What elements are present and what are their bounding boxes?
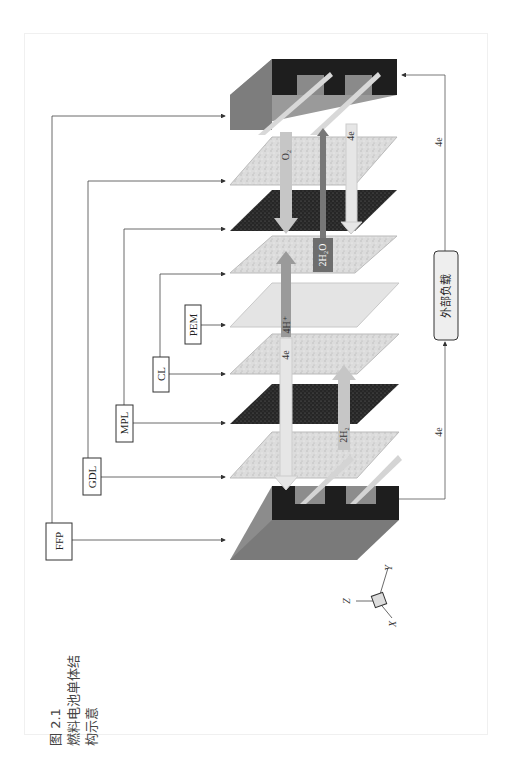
- circuit-electron-bottom-label: 4e: [433, 427, 444, 437]
- axis-z-label: Z: [341, 598, 352, 604]
- proton-label: 4H⁺: [281, 316, 292, 333]
- pem-layer: [230, 283, 399, 327]
- mpl-label-box: MPL: [116, 405, 133, 442]
- external-load-box: 外部负载: [434, 251, 458, 340]
- anode-gdl-layer: [230, 432, 399, 478]
- h2-label: 2H₂: [338, 427, 349, 443]
- axis-triad: Y Z X: [341, 564, 398, 628]
- ffp-label-box: FFP: [46, 523, 72, 560]
- svg-text:PEM: PEM: [187, 313, 199, 336]
- circuit-electron-top-label: 4e: [433, 137, 444, 147]
- cathode-flow-field-plate: [230, 59, 397, 135]
- figure-caption: 图 2.1 燃料电池单体结 构示意: [48, 655, 99, 746]
- caption-line2: 构示意: [84, 707, 99, 746]
- fuel-cell-diagram: O₂ 2H₂O 4e 4H⁺ 4e 2H₂: [0, 0, 515, 782]
- caption-number: 图 2.1: [48, 708, 63, 746]
- gdl-label-box: GDL: [83, 458, 101, 495]
- caption-line1: 燃料电池单体结: [66, 655, 81, 746]
- electron-cathode-label: 4e: [345, 131, 356, 141]
- cl-label-box: CL: [153, 357, 169, 392]
- pem-label-box: PEM: [185, 305, 201, 344]
- cathode-gdl-layer: [230, 137, 397, 185]
- svg-text:MPL: MPL: [118, 411, 130, 434]
- electron-anode-label: 4e: [280, 350, 291, 360]
- svg-text:CL: CL: [155, 367, 167, 381]
- axis-x-label: X: [387, 620, 398, 628]
- cathode-mpl-layer: [230, 190, 397, 231]
- svg-text:FFP: FFP: [53, 532, 65, 550]
- svg-text:外部负载: 外部负载: [439, 274, 453, 318]
- svg-text:GDL: GDL: [86, 465, 98, 488]
- o2-label: O₂: [280, 150, 291, 161]
- h2o-label: 2H₂O: [317, 244, 328, 267]
- anode-cl-layer: [230, 334, 399, 374]
- anode-mpl-layer: [230, 384, 399, 424]
- axis-y-label: Y: [383, 564, 394, 571]
